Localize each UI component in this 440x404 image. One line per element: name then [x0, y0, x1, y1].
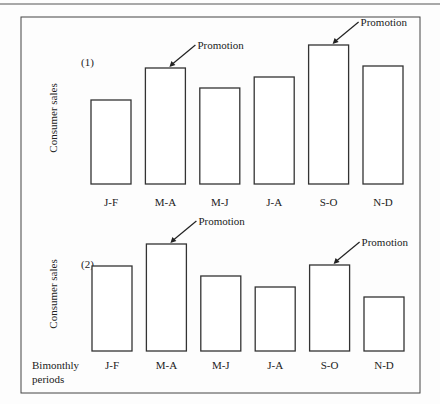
x-tick-label: J-A: [267, 359, 283, 371]
x-tick-label: J-F: [105, 359, 119, 371]
x-tick-label: M-J: [211, 196, 229, 208]
x-tick-label: M-A: [155, 196, 176, 208]
bar-j-a: [254, 77, 294, 184]
bar-j-f: [91, 100, 131, 184]
bar-j-f: [92, 266, 132, 351]
x-tick-label: N-D: [373, 196, 393, 208]
bar-m-a: [145, 68, 185, 184]
annotation-label: Promotion: [198, 215, 245, 227]
bar-s-o: [309, 45, 349, 184]
panel-label: (1): [81, 56, 94, 69]
x-tick-label: J-F: [104, 196, 118, 208]
bar-n-d: [364, 297, 404, 351]
x-tick-label: J-A: [266, 196, 282, 208]
annotation-label: Promotion: [362, 236, 409, 248]
y-axis-label: Consumer sales: [47, 83, 59, 152]
bar-m-j: [200, 88, 240, 184]
annotation-label: Promotion: [197, 39, 244, 51]
x-tick-label: N-D: [374, 359, 394, 371]
bar-n-d: [363, 66, 403, 184]
annotation-arrow-line: [173, 221, 196, 240]
y-axis-label: Consumer sales: [47, 259, 59, 328]
figure: (1) Consumer sales J-FM-AM-JJ-AS-ON-D Pr…: [0, 0, 440, 404]
x-axis-caption-line-1: Bimonthly: [32, 359, 80, 371]
bar-m-j: [201, 276, 241, 351]
annotation-label: Promotion: [361, 16, 408, 28]
x-tick-label: M-J: [212, 359, 230, 371]
chart-panel-1: (1) Consumer sales J-FM-AM-JJ-AS-ON-D Pr…: [47, 16, 408, 208]
x-tick-label: S-O: [321, 359, 339, 371]
annotation-arrow-line: [172, 45, 195, 64]
bar-m-a: [146, 244, 186, 351]
x-tick-label: S-O: [320, 196, 338, 208]
x-tick-label: M-A: [156, 359, 177, 371]
bar-j-a: [255, 287, 295, 351]
annotation-arrow-line: [337, 242, 360, 261]
x-axis-caption-line-2: periods: [32, 373, 64, 385]
annotation-arrow-line: [336, 22, 359, 41]
bar-s-o: [310, 265, 350, 351]
chart-panel-2: (2) Consumer sales J-FM-AM-JJ-AS-ON-D Pr…: [47, 215, 409, 371]
